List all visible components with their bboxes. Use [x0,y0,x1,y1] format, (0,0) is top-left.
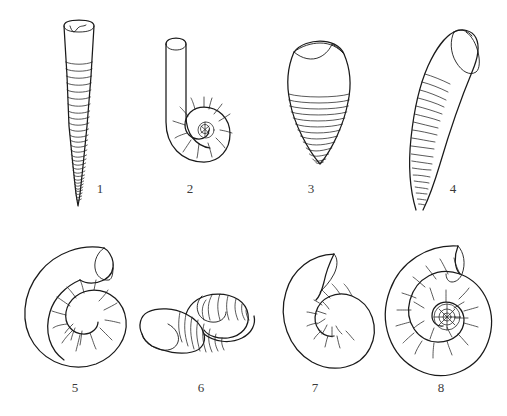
lituiticone-ribs [173,97,232,158]
lituiticone-outline [166,38,230,162]
torticone-ribs [179,294,249,352]
figure-5-gyrocone [16,236,144,376]
figure-7-label: 7 [303,381,327,395]
figure-7-nautilicone [276,244,380,376]
brevicone-outline [288,41,350,164]
figure-8-ammoniticone [376,238,498,380]
figure-8-label: 8 [429,381,453,395]
figure-5-label: 5 [63,381,87,395]
figure-4-label: 4 [441,182,465,196]
ammoniticone-outline [385,246,491,376]
figure-6-torticone [128,272,258,368]
figure-3-label: 3 [299,182,323,196]
figure-plate: 1 [0,0,507,416]
gyrocone-outline [25,247,126,367]
figure-1-label: 1 [88,182,112,196]
figure-2-lituiticone [148,30,234,175]
figure-6-label: 6 [189,381,213,395]
nautilicone-outline [283,254,374,368]
figure-2-label: 2 [178,182,202,196]
nautilicone-ribs [307,284,354,348]
figure-1-orthocone [48,16,110,208]
figure-3-brevicone [268,32,360,174]
